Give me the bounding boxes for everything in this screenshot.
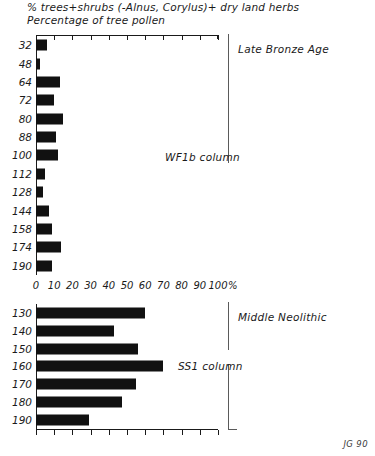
axis-tick-80 — [182, 430, 183, 435]
y-tick-label-190: 190 — [12, 260, 32, 271]
bar-160 — [36, 361, 163, 372]
bar-row: 128 — [36, 183, 218, 201]
bar-190 — [36, 414, 89, 425]
x-tick-label-0: 0 — [33, 280, 39, 291]
axis-tick-70 — [163, 430, 164, 435]
x-tick-label-10: 10 — [48, 280, 61, 291]
bar-80 — [36, 113, 63, 124]
y-tick-label-158: 158 — [12, 223, 32, 234]
bar-row: 48 — [36, 54, 218, 72]
bar-128 — [36, 187, 43, 198]
annotation-ss1-column: SS1 column — [178, 360, 243, 372]
y-tick-label-32: 32 — [19, 40, 32, 51]
bar-row: 150 — [36, 340, 218, 358]
y-tick-label-150: 150 — [12, 343, 32, 354]
bar-64 — [36, 76, 60, 87]
x-tick-label-80: 80 — [175, 280, 188, 291]
axis-tick-100 — [218, 35, 219, 40]
x-tick-label-100: 100 — [208, 280, 227, 291]
bar-row: 180 — [36, 393, 218, 411]
annotation-wf1b-column: WF1b column — [165, 151, 240, 163]
x-tick-label-30: 30 — [84, 280, 97, 291]
bar-112 — [36, 168, 45, 179]
bar-row: 88 — [36, 128, 218, 146]
y-tick-label-72: 72 — [19, 95, 32, 106]
y-tick-label-144: 144 — [12, 205, 32, 216]
bar-180 — [36, 397, 122, 408]
x-tick-label-50: 50 — [121, 280, 134, 291]
figure-signature: JG 90 — [343, 439, 368, 449]
y-tick-label-130: 130 — [12, 307, 32, 318]
title-line-2: Percentage of tree pollen — [27, 14, 357, 27]
bar-row: 80 — [36, 110, 218, 128]
bar-row: 72 — [36, 91, 218, 109]
x-tick-label-60: 60 — [139, 280, 152, 291]
bar-190 — [36, 260, 52, 271]
y-tick-label-140: 140 — [12, 325, 32, 336]
lower-rule-foot — [228, 429, 237, 430]
bar-row: 158 — [36, 220, 218, 238]
bar-row: 130 — [36, 304, 218, 322]
lower-axis-ticks — [36, 430, 218, 435]
title-line-1: % trees+shrubs (-Alnus, Corylus)+ dry la… — [27, 1, 357, 14]
y-tick-label-112: 112 — [12, 168, 32, 179]
y-tick-label-128: 128 — [12, 187, 32, 198]
y-tick-label-88: 88 — [19, 132, 32, 143]
bar-144 — [36, 205, 49, 216]
annotation-middle-neolithic: Middle Neolithic — [238, 311, 327, 323]
axis-tick-60 — [145, 430, 146, 435]
bar-32 — [36, 40, 47, 51]
bar-150 — [36, 343, 138, 354]
axis-tick-20 — [72, 430, 73, 435]
bar-158 — [36, 223, 52, 234]
y-tick-label-64: 64 — [19, 76, 32, 87]
bar-88 — [36, 132, 56, 143]
chart-panel-ss1: 130140150160170180190 Middle Neolithic S… — [0, 302, 375, 444]
y-tick-label-80: 80 — [19, 113, 32, 124]
chart-panel-wf1b: 324864728088100112128144158174190 010203… — [0, 30, 375, 298]
y-tick-label-174: 174 — [12, 242, 32, 253]
lower-column-rule — [228, 364, 229, 430]
annotation-late-bronze-age: Late Bronze Age — [238, 43, 329, 55]
axis-tick-30 — [91, 430, 92, 435]
bar-130 — [36, 307, 145, 318]
y-tick-label-48: 48 — [19, 58, 32, 69]
bar-140 — [36, 325, 114, 336]
bar-row: 144 — [36, 201, 218, 219]
y-tick-label-100: 100 — [12, 150, 32, 161]
axis-tick-90 — [200, 430, 201, 435]
upper-x-tick-labels: 0102030405060708090100% — [36, 280, 218, 294]
axis-tick-10 — [54, 430, 55, 435]
lower-period-rule — [228, 302, 229, 350]
bar-72 — [36, 95, 54, 106]
upper-period-rule — [228, 34, 229, 163]
axis-tick-0 — [36, 430, 37, 435]
bar-row: 64 — [36, 73, 218, 91]
y-tick-label-160: 160 — [12, 361, 32, 372]
x-tick-label-90: 90 — [193, 280, 206, 291]
x-tick-label-70: 70 — [157, 280, 170, 291]
bar-48 — [36, 58, 40, 69]
bar-100 — [36, 150, 58, 161]
bar-row: 174 — [36, 238, 218, 256]
figure-title: % trees+shrubs (-Alnus, Corylus)+ dry la… — [27, 1, 357, 27]
x-tick-label-20: 20 — [66, 280, 79, 291]
x-tick-label-40: 40 — [102, 280, 115, 291]
y-tick-label-190: 190 — [12, 414, 32, 425]
bar-row: 32 — [36, 36, 218, 54]
axis-tick-50 — [127, 430, 128, 435]
bar-row: 190 — [36, 411, 218, 429]
x-axis-percent-symbol: % — [228, 280, 238, 291]
bar-row: 112 — [36, 165, 218, 183]
bar-row: 170 — [36, 375, 218, 393]
axis-tick-100 — [218, 430, 219, 435]
bar-row: 190 — [36, 257, 218, 275]
figure-canvas: % trees+shrubs (-Alnus, Corylus)+ dry la… — [0, 0, 375, 456]
bar-174 — [36, 242, 61, 253]
y-tick-label-180: 180 — [12, 397, 32, 408]
axis-tick-40 — [109, 430, 110, 435]
bar-row: 140 — [36, 322, 218, 340]
bar-170 — [36, 379, 136, 390]
y-tick-label-170: 170 — [12, 379, 32, 390]
